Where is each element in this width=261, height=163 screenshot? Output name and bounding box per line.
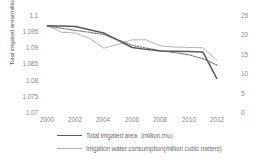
legend-item-total-irrigated-area[interactable]: Total irrigated area（million.mu）	[57, 131, 177, 140]
legend-swatch-solid-icon	[57, 135, 82, 136]
legend-label: Total irrigated area（million.mu）	[86, 131, 177, 140]
series-line-total-irrigated-area	[47, 26, 217, 79]
series-line-trend	[47, 26, 217, 65]
legend-item-irrigation-water-consumption[interactable]: Irrigation water consumption(million cub…	[57, 145, 222, 152]
legend-swatch-light-icon	[57, 148, 82, 149]
chart-container: Total irrigated area(million mu) 1.1 1.0…	[0, 0, 261, 163]
legend-label: Irrigation water consumption(million cub…	[86, 145, 222, 152]
